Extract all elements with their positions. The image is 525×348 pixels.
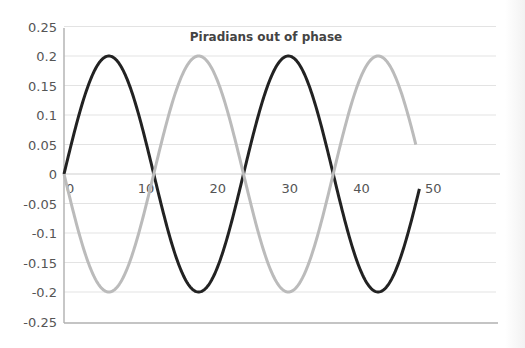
x-tick-label: 20 (210, 181, 227, 196)
chart-title: Piradians out of phase (190, 30, 342, 44)
x-axis-tick-labels: 01020304050 (66, 181, 442, 196)
gridlines (64, 27, 496, 293)
y-tick-label: 0.1 (36, 108, 57, 123)
page-edge-shadow (505, 0, 525, 348)
y-tick-label: -0.05 (23, 197, 57, 212)
y-tick-label: 0.15 (28, 79, 57, 94)
y-tick-label: 0 (49, 167, 57, 182)
x-tick-label: 30 (281, 181, 298, 196)
y-tick-label: -0.25 (23, 315, 57, 330)
y-tick-label: 0.2 (36, 49, 57, 64)
y-tick-label: -0.2 (32, 285, 57, 300)
y-tick-label: -0.1 (32, 226, 57, 241)
y-tick-label: 0.05 (28, 138, 57, 153)
y-axis-tick-labels: 0.250.20.150.10.050-0.05-0.1-0.15-0.2-0.… (23, 20, 57, 330)
chart: 0.250.20.150.10.050-0.05-0.1-0.15-0.2-0.… (0, 0, 525, 348)
y-tick-label: 0.25 (28, 20, 57, 35)
x-tick-label: 40 (353, 181, 370, 196)
y-tick-label: -0.15 (23, 256, 57, 271)
x-tick-label: 50 (425, 181, 442, 196)
